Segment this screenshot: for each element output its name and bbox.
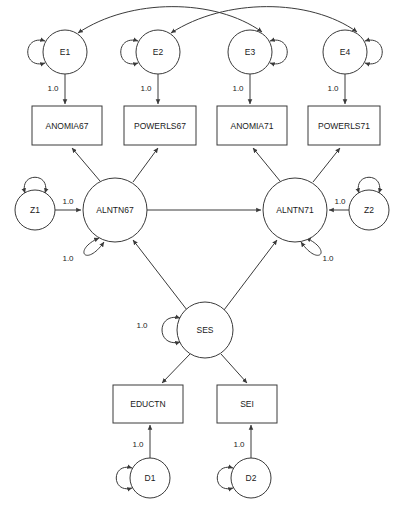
coef-e3-anomia71: 1.0	[232, 84, 244, 93]
sei-label: SEI	[240, 399, 254, 409]
coef-e1-anomia67: 1.0	[47, 84, 59, 93]
eductn-label: EDUCTN	[130, 399, 165, 409]
indicator-box-powerls67[interactable]: POWERLS67	[124, 106, 196, 145]
coef-d1-eductn: 1.0	[132, 440, 144, 449]
indicator-box-sei[interactable]: SEI	[217, 385, 277, 423]
sem-path-diagram: E1 E2 E3 E4 1.0 1.0 1.0 1.0 ANOMIA67 POW…	[0, 0, 412, 517]
coef-ses-variance: 1.0	[136, 321, 148, 330]
coef-e2-powerls67: 1.0	[140, 84, 152, 93]
e2-label: E2	[153, 47, 164, 57]
anomia67-label: ANOMIA67	[46, 121, 89, 131]
coef-z2-alntn71: 1.0	[334, 197, 346, 206]
alntn71-label: ALNTN71	[276, 205, 314, 215]
indicator-box-powerls71[interactable]: POWERLS71	[308, 106, 380, 145]
z1-label: Z1	[30, 205, 40, 215]
anomia71-label: ANOMIA71	[231, 121, 274, 131]
z2-label: Z2	[364, 205, 374, 215]
coef-e4-powerls71: 1.0	[327, 84, 339, 93]
coef-d2-sei: 1.0	[233, 440, 245, 449]
coef-alntn67-variance: 1.0	[62, 254, 74, 263]
powerls71-label: POWERLS71	[318, 121, 370, 131]
indicator-box-anomia71[interactable]: ANOMIA71	[217, 106, 287, 145]
indicator-box-anomia67[interactable]: ANOMIA67	[32, 106, 102, 145]
powerls67-label: POWERLS67	[134, 121, 186, 131]
ses-label: SES	[196, 325, 213, 335]
d2-label: D2	[246, 473, 257, 483]
e4-label: E4	[340, 47, 351, 57]
coef-alntn71-variance: 1.0	[322, 254, 334, 263]
alntn67-label: ALNTN67	[96, 205, 134, 215]
e1-label: E1	[60, 47, 71, 57]
coef-z1-alntn67: 1.0	[62, 197, 74, 206]
indicator-box-eductn[interactable]: EDUCTN	[113, 385, 183, 423]
e3-label: E3	[245, 47, 256, 57]
d1-label: D1	[145, 473, 156, 483]
